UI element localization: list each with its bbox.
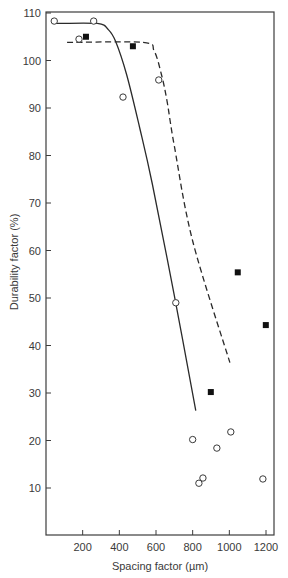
open-circle-marker <box>120 94 126 100</box>
open-circle-marker <box>214 445 220 451</box>
x-tick-label: 600 <box>147 541 165 553</box>
open-circle-marker <box>51 18 57 24</box>
y-tick-label: 110 <box>23 7 41 19</box>
open-circle-marker <box>173 300 179 306</box>
y-tick-label: 80 <box>29 150 41 162</box>
open-circle-marker <box>260 476 266 482</box>
fit-curves <box>54 23 230 411</box>
filled-square-marker <box>208 389 214 395</box>
open-circle-marker <box>189 436 195 442</box>
x-tick-label: 800 <box>183 541 201 553</box>
filled-square-marker <box>263 322 269 328</box>
y-tick-label: 30 <box>29 387 41 399</box>
y-tick-label: 20 <box>29 435 41 447</box>
chart-svg: 102030405060708090100110 200400600800100… <box>0 0 288 578</box>
y-tick-label: 10 <box>29 482 41 494</box>
filled-square-marker <box>83 34 89 40</box>
x-tick-label: 400 <box>110 541 128 553</box>
y-tick-label: 100 <box>23 55 41 67</box>
data-markers <box>51 18 269 487</box>
open-circle-marker <box>228 429 234 435</box>
solid-fit-curve <box>54 23 196 411</box>
x-tick-label: 1200 <box>254 541 278 553</box>
open-circle-marker <box>156 77 162 83</box>
x-axis-title: Spacing factor (µm) <box>112 560 208 572</box>
y-tick-label: 90 <box>29 102 41 114</box>
open-circle-marker <box>196 480 202 486</box>
y-tick-label: 40 <box>29 340 41 352</box>
x-axis: 20040060080010001200 <box>73 530 278 553</box>
dashed-fit-curve <box>67 42 230 363</box>
chart-container: 102030405060708090100110 200400600800100… <box>0 0 288 578</box>
y-tick-label: 70 <box>29 197 41 209</box>
filled-square-marker <box>130 43 136 49</box>
open-circle-marker <box>76 36 82 42</box>
y-axis: 102030405060708090100110 <box>23 7 51 494</box>
y-tick-label: 60 <box>29 245 41 257</box>
x-tick-label: 200 <box>73 541 91 553</box>
y-axis-title: Durability factor (%) <box>8 214 20 311</box>
y-tick-label: 50 <box>29 292 41 304</box>
filled-square-marker <box>235 269 241 275</box>
open-circle-marker <box>90 18 96 24</box>
x-tick-label: 1000 <box>217 541 241 553</box>
